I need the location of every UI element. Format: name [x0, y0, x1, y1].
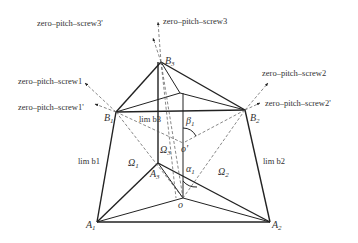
point-o: o [178, 199, 183, 210]
angle-beta-arc [183, 128, 196, 136]
label-screw2: zero–pitch–screw2 [262, 68, 326, 78]
point-B3: B3 [165, 55, 175, 68]
label-screw1-prime: zero–pitch–screw1' [18, 102, 84, 112]
point-B1: B1 [104, 112, 114, 125]
angle-beta: β1 [185, 115, 194, 128]
moving-platform [116, 62, 245, 112]
label-screw2-prime: zero–pitch–screw2' [265, 98, 331, 108]
label-screw1: zero–pitch–screw1 [18, 76, 82, 86]
point-o-prime: o' [181, 143, 189, 154]
region-omega3: Ω3 [160, 144, 171, 157]
label-screw3-prime: zero–pitch–screw3' [37, 18, 103, 28]
limb-b2 [245, 110, 270, 222]
point-A1: A1 [85, 219, 96, 232]
region-omega2: Ω2 [218, 166, 229, 179]
point-A2: A2 [271, 219, 282, 232]
label-limb-b3: lim b3 [139, 114, 161, 124]
region-omega1: Ω1 [128, 157, 139, 170]
label-limb-b2: lim b2 [263, 156, 285, 166]
parallel-mechanism-diagram: zero–pitch–screw3' zero–pitch–screw3 zer… [0, 0, 358, 243]
label-screw3: zero–pitch–screw3 [163, 16, 227, 26]
point-A3: A3 [149, 168, 160, 181]
point-B2: B2 [250, 112, 260, 125]
angle-alpha: α1 [186, 163, 195, 176]
label-limb-b1: lim b1 [78, 156, 100, 166]
